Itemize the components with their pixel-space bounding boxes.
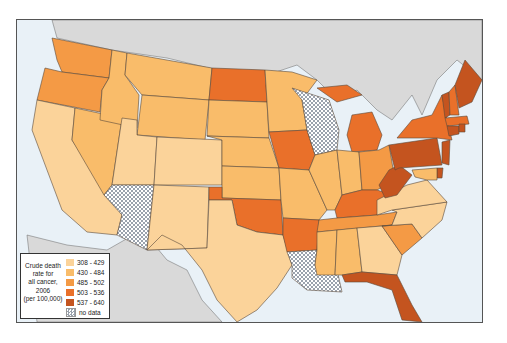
state-ma (445, 116, 469, 126)
state-sd (207, 100, 269, 138)
state-ks (222, 166, 281, 200)
legend-title: Crude death rate for all cancer, 2006 (p… (23, 262, 63, 303)
legend-item: 503 - 536 (66, 288, 104, 296)
state-pa (389, 138, 442, 170)
state-nm (147, 185, 209, 250)
legend: Crude death rate for all cancer, 2006 (p… (20, 253, 110, 319)
state-de (437, 168, 443, 178)
legend-swatch (66, 269, 74, 276)
legend-item: no data (66, 308, 101, 316)
state-nd (209, 68, 267, 102)
state-fl (342, 272, 422, 322)
state-ct (447, 126, 459, 136)
legend-swatch (66, 259, 74, 266)
state-wy (137, 95, 209, 140)
legend-swatch (66, 289, 74, 296)
state-ar (283, 218, 319, 252)
legend-swatch (66, 279, 74, 286)
state-co (154, 137, 222, 185)
state-nj (442, 140, 450, 165)
state-ri (459, 124, 465, 132)
legend-item: 430 - 484 (66, 268, 104, 276)
state-ms (315, 230, 337, 275)
legend-swatch (66, 299, 74, 306)
legend-item: 537 - 640 (66, 298, 104, 306)
legend-item: 308 - 429 (66, 258, 104, 266)
state-md (412, 168, 437, 180)
legend-item: 485 - 502 (66, 278, 104, 286)
legend-swatch (66, 308, 76, 317)
